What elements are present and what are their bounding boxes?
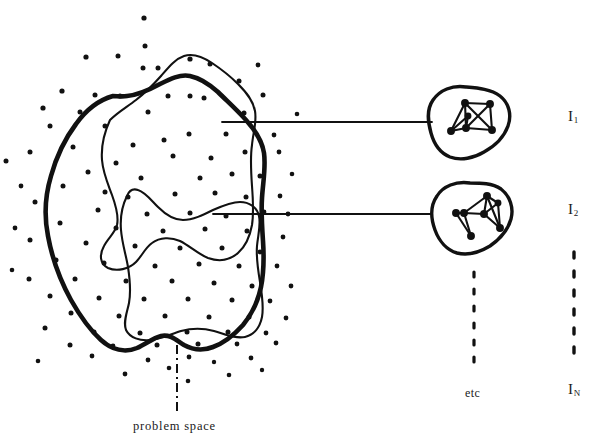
figure-canvas: I1 I2 etc IN problem space bbox=[0, 0, 601, 442]
subregion-upper-outline bbox=[101, 55, 256, 270]
instance-graph-1 bbox=[448, 100, 495, 134]
instance-label-1-subscript: 1 bbox=[574, 115, 579, 125]
instance-label-n-text: I bbox=[568, 381, 573, 397]
instance-blob-2 bbox=[432, 183, 512, 254]
etc-label: etc bbox=[465, 386, 480, 401]
instance-graph-2 bbox=[453, 193, 503, 239]
instance-label-n-subscript: N bbox=[574, 388, 581, 398]
instance-label-1-text: I bbox=[568, 108, 573, 124]
instance-label-n: IN bbox=[568, 381, 580, 398]
instance-label-2: I2 bbox=[568, 201, 578, 218]
instance-label-2-text: I bbox=[568, 201, 573, 217]
instance-label-2-subscript: 2 bbox=[574, 208, 579, 218]
problem-space-caption: problem space bbox=[133, 419, 216, 434]
instance-blob-1 bbox=[428, 87, 509, 159]
problem-space-outline bbox=[46, 76, 265, 351]
instance-label-1: I1 bbox=[568, 108, 578, 125]
figure-drawing bbox=[0, 0, 601, 442]
